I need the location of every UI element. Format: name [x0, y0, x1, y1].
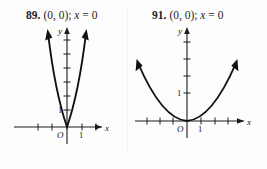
x-tick-label-91: 1 [198, 124, 202, 134]
x-axis-89 [14, 124, 102, 130]
graph-91: x y O 1 1 [127, 0, 267, 169]
problem-panel-89: 89.(0, 0); x = 0 [0, 0, 127, 169]
origin-label-89: O [57, 130, 64, 140]
y-tick-label-89: 1 [58, 105, 62, 115]
problem-panel-91: 91.(0, 0); x = 0 [127, 0, 267, 169]
answer-key-page: 89.(0, 0); x = 0 [0, 0, 267, 169]
y-axis-label-91: y [177, 26, 182, 36]
graph-89: x y O 1 1 [0, 0, 127, 169]
x-tick-label-89: 1 [79, 130, 83, 140]
x-axis-label-89: x [104, 123, 109, 133]
x-axis-label-91: x [246, 117, 251, 127]
y-tick-label-91: 1 [177, 88, 181, 98]
origin-label-91: O [177, 124, 184, 134]
y-axis-label-89: y [57, 26, 62, 36]
